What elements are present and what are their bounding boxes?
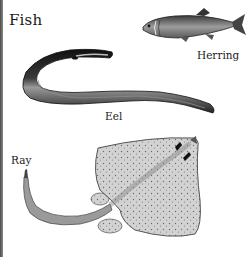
eel-label: Eel <box>105 111 122 122</box>
fish-artwork <box>0 0 251 257</box>
ray-illustration <box>24 136 201 236</box>
fish-illustration-page: Fish Herring Eel Ray <box>0 0 251 257</box>
eel-eye <box>72 56 78 59</box>
herring-illustration <box>143 8 246 42</box>
eel-body <box>23 49 214 113</box>
herring-body <box>143 16 238 38</box>
herring-tail <box>232 14 246 35</box>
herring-label: Herring <box>197 50 239 61</box>
herring-eye <box>148 25 151 28</box>
herring-dorsal-fin <box>196 8 210 16</box>
ray-label: Ray <box>11 155 31 166</box>
eel-illustration <box>23 49 214 113</box>
page-title: Fish <box>9 13 42 28</box>
